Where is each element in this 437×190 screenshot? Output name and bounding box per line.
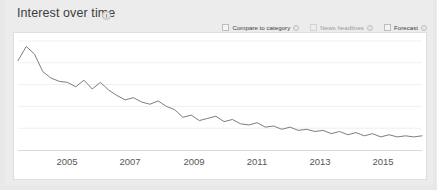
chart-line-search-interest (18, 46, 422, 136)
trends-widget: Interest over time Compare to category N… (0, 0, 437, 190)
compare-to-category-checkbox[interactable] (222, 24, 229, 31)
x-axis-tick-label: 2005 (56, 156, 77, 167)
interest-over-time-chart[interactable] (14, 33, 426, 151)
info-icon[interactable] (293, 25, 299, 31)
info-icon[interactable] (102, 11, 111, 20)
x-axis-tick-label: 2011 (247, 156, 267, 167)
x-axis-tick-label: 2015 (372, 156, 393, 167)
x-axis-tick-label: 2009 (183, 156, 204, 167)
forecast-checkbox[interactable] (384, 24, 391, 31)
info-icon[interactable] (421, 25, 427, 31)
x-axis-tick-label: 2007 (119, 156, 140, 167)
compare-to-category-label: Compare to category (232, 23, 290, 32)
info-icon[interactable] (367, 25, 373, 31)
forecast-label: Forecast (394, 23, 418, 32)
chart-card: 200520072009201120132015 (13, 32, 427, 180)
news-headlines-checkbox[interactable] (310, 24, 317, 31)
chart-svg (14, 33, 426, 151)
panel-header: Interest over time Compare to category N… (5, 0, 433, 32)
news-headlines-label: News headlines (320, 23, 364, 32)
chart-x-axis: 200520072009201120132015 (14, 152, 426, 178)
x-axis-tick-label: 2013 (309, 156, 330, 167)
page-title: Interest over time (17, 6, 115, 20)
interest-over-time-panel: Interest over time Compare to category N… (5, 0, 433, 185)
